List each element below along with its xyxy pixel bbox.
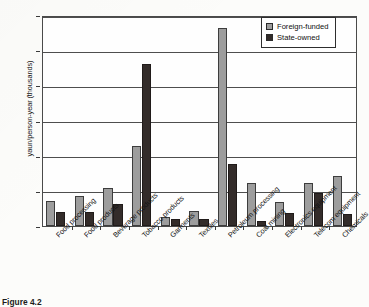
figure-caption: Figure 4.2	[2, 297, 42, 307]
bar-foreign-funded	[218, 28, 227, 226]
y-gridline	[43, 87, 356, 88]
y-axis-title: yaun/person-year (thousands)	[25, 34, 34, 184]
legend-item-foreign-funded: Foreign-funded	[266, 21, 329, 32]
chart-legend: Foreign-funded State-owned	[261, 17, 336, 48]
bar-foreign-funded	[46, 201, 55, 226]
legend-label-foreign-funded: Foreign-funded	[277, 22, 329, 31]
y-tick-mark	[36, 192, 40, 193]
y-gridline	[43, 52, 356, 53]
y-tick-mark	[36, 122, 40, 123]
y-gridline	[43, 157, 356, 158]
legend-swatch-icon-foreign-funded	[266, 23, 273, 30]
y-tick-mark	[36, 51, 40, 52]
legend-item-state-owned: State-owned	[266, 32, 329, 43]
legend-swatch-icon-state-owned	[266, 34, 273, 41]
bar-state-owned	[228, 164, 237, 226]
y-gridline	[43, 122, 356, 123]
y-tick-mark	[36, 86, 40, 87]
y-tick-mark	[36, 227, 40, 228]
y-tick-mark	[36, 157, 40, 158]
legend-label-state-owned: State-owned	[277, 33, 320, 42]
y-tick-mark	[36, 16, 40, 17]
